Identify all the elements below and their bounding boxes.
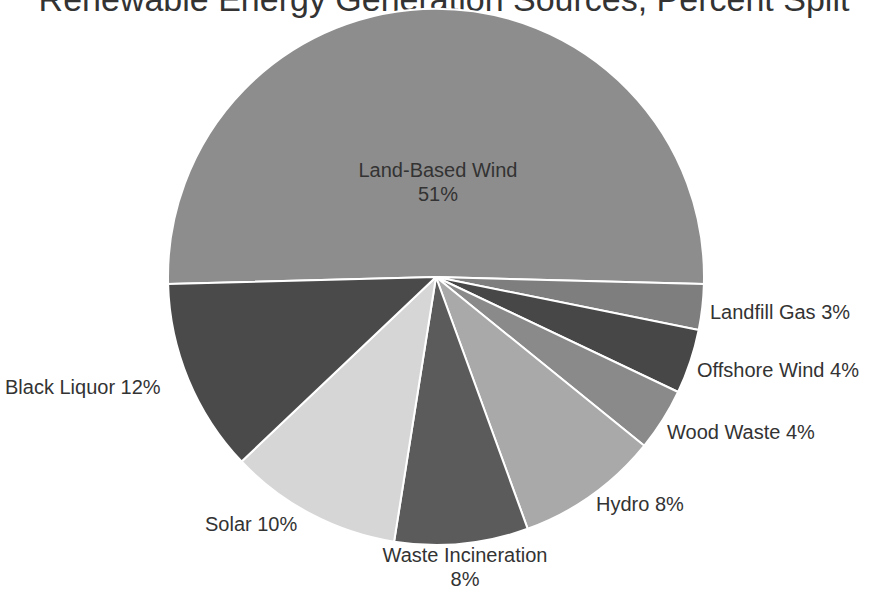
label-offshore-wind: Offshore Wind 4% — [697, 358, 859, 382]
label-hydro: Hydro 8% — [596, 492, 684, 516]
label-solar: Solar 10% — [205, 512, 297, 536]
slice-land-based-wind — [168, 9, 704, 284]
label-waste-incineration-pct: 8% — [355, 567, 575, 590]
label-wood-waste: Wood Waste 4% — [667, 420, 815, 444]
label-waste-incineration-name: Waste Incineration — [355, 543, 575, 567]
label-land-based-wind: Land-Based Wind 51% — [328, 158, 548, 206]
label-black-liquor: Black Liquor 12% — [5, 375, 161, 399]
label-waste-incineration: Waste Incineration 8% — [355, 543, 575, 590]
label-land-based-wind-name: Land-Based Wind — [328, 158, 548, 182]
label-land-based-wind-pct: 51% — [328, 182, 548, 206]
label-landfill-gas: Landfill Gas 3% — [710, 300, 850, 324]
